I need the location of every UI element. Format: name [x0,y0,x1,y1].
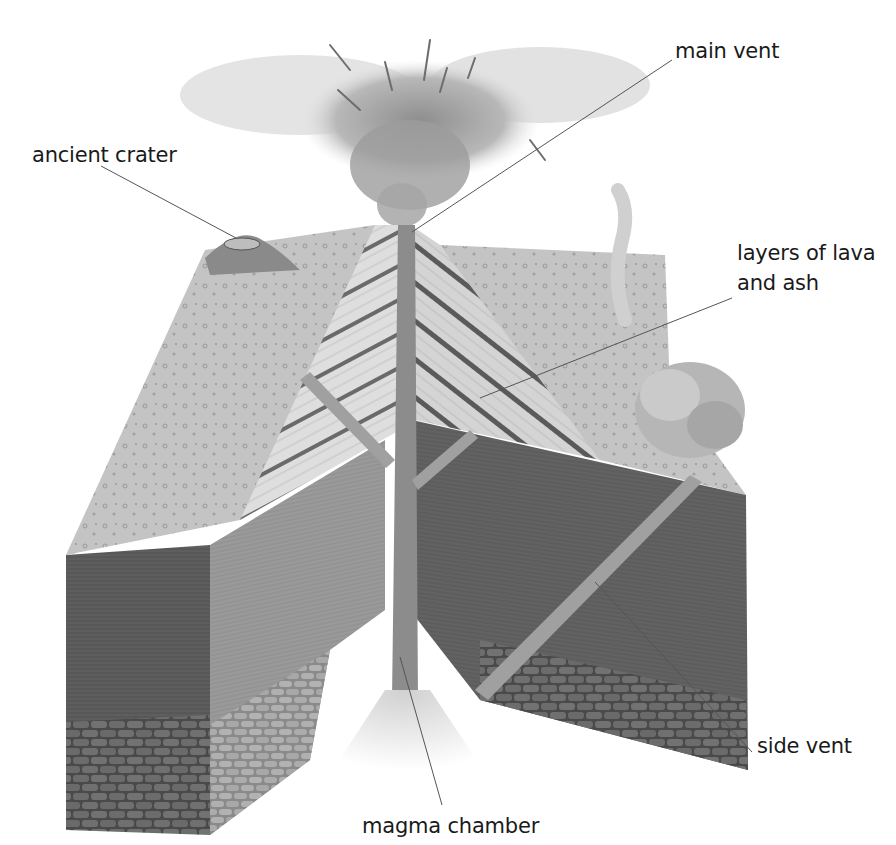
eruption-ash-cloud [180,40,650,227]
label-layers-of-lava-line2: and ash [737,270,819,296]
left-block-front-face [66,545,210,835]
magma-chamber [320,690,490,790]
label-magma-chamber: magma chamber [362,813,539,839]
label-ancient-crater: ancient crater [32,142,177,168]
label-layers-of-lava-line1: layers of lava [737,240,875,266]
side-vent-ash-cloud [635,362,745,458]
label-side-vent: side vent [757,733,852,759]
fumarole-steam [618,190,626,320]
volcano-cross-section-diagram [0,0,896,845]
ancient-crater-leader-line [101,166,236,238]
label-main-vent: main vent [675,38,779,64]
